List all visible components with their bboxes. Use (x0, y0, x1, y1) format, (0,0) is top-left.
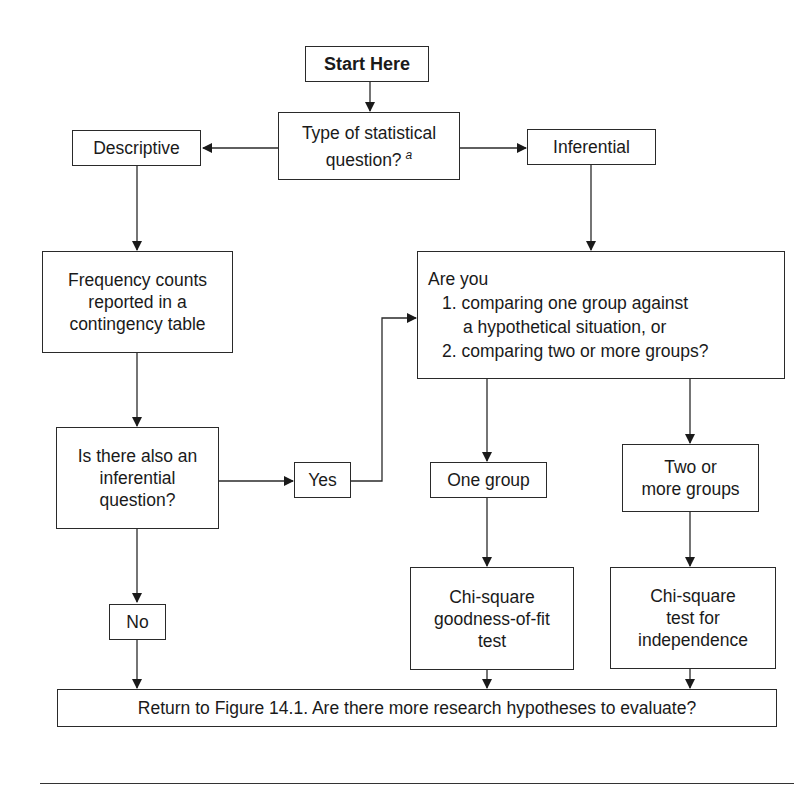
are-you-line: Are you (428, 267, 488, 291)
frequency-counts-node: Frequency counts reported in a contingen… (42, 251, 233, 353)
question-type-line1: Type of statistical (302, 122, 436, 144)
one-group-node: One group (430, 462, 547, 498)
frequency-line: reported in a (88, 291, 186, 313)
goodness-line: test (478, 630, 506, 652)
return-label: Return to Figure 14.1. Are there more re… (138, 697, 696, 719)
frequency-line: Frequency counts (68, 269, 207, 291)
footnote-marker: a (406, 148, 413, 162)
return-node: Return to Figure 14.1. Are there more re… (57, 689, 777, 727)
inferential-label: Inferential (553, 136, 630, 158)
are-you-option-1: 1. comparing one group against (428, 291, 688, 315)
no-node: No (109, 604, 166, 640)
yes-label: Yes (308, 469, 337, 491)
goodness-line: Chi-square (449, 586, 535, 608)
two-groups-node: Two or more groups (622, 444, 759, 512)
start-here-label: Start Here (324, 53, 410, 75)
are-you-option-1-cont: a hypothetical situation, or (428, 315, 666, 339)
two-groups-line: Two or (664, 456, 717, 478)
independence-node: Chi-square test for independence (610, 567, 776, 669)
goodness-of-fit-node: Chi-square goodness-of-fit test (410, 567, 574, 670)
start-here-node: Start Here (305, 46, 429, 82)
also-inferential-line: inferential (100, 467, 176, 489)
independence-line: independence (638, 629, 748, 651)
bottom-rule-divider (40, 783, 794, 784)
two-groups-line: more groups (641, 478, 739, 500)
also-inferential-node: Is there also an inferential question? (56, 427, 219, 529)
goodness-line: goodness-of-fit (434, 608, 550, 630)
inferential-node: Inferential (527, 129, 656, 165)
independence-line: Chi-square (650, 585, 736, 607)
independence-line: test for (666, 607, 720, 629)
yes-node: Yes (294, 462, 351, 498)
one-group-label: One group (447, 469, 530, 491)
question-type-node: Type of statistical question?a (278, 112, 460, 180)
question-type-line2: question? (326, 149, 402, 169)
frequency-line: contingency table (69, 313, 205, 335)
descriptive-label: Descriptive (93, 137, 180, 159)
are-you-node: Are you 1. comparing one group against a… (417, 251, 785, 379)
also-inferential-line: Is there also an (78, 445, 198, 467)
no-label: No (126, 611, 148, 633)
are-you-option-2: 2. comparing two or more groups? (428, 339, 709, 363)
descriptive-node: Descriptive (72, 130, 201, 166)
also-inferential-line: question? (100, 489, 176, 511)
